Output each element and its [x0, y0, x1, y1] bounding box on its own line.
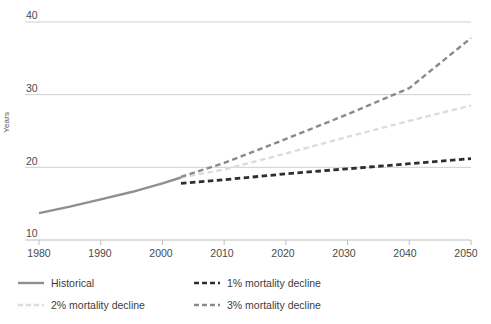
legend-swatch-decline-3 [194, 300, 220, 310]
legend-label-decline-2: 2% mortality decline [51, 298, 145, 312]
legend-label-historical: Historical [51, 276, 94, 290]
series-line-2-mortality-decline [181, 106, 471, 178]
legend-label-decline-3: 3% mortality decline [227, 298, 321, 312]
legend-item-decline-2: 2% mortality decline [18, 298, 145, 312]
series-line-historical [39, 178, 181, 214]
legend-label-decline-1: 1% mortality decline [227, 276, 321, 290]
life-expectancy-projection-chart: Years 40 30 20 10 1980 1990 2000 2010 20… [0, 0, 491, 324]
legend-swatch-decline-1 [194, 278, 220, 288]
legend-item-decline-1: 1% mortality decline [194, 276, 321, 290]
legend-swatch-historical [18, 278, 44, 288]
series-line-3-mortality-decline [181, 38, 471, 177]
legend-swatch-decline-2 [18, 300, 44, 310]
legend-item-decline-3: 3% mortality decline [194, 298, 321, 312]
chart-legend: Historical 1% mortality decline 2% morta… [18, 274, 478, 318]
legend-item-historical: Historical [18, 276, 94, 290]
